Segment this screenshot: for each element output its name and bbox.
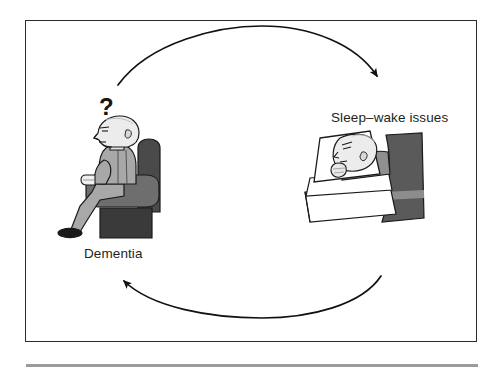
person-hand bbox=[81, 175, 95, 185]
label-sleep-wake-issues: Sleep–wake issues bbox=[331, 110, 448, 125]
person-shoe bbox=[58, 228, 82, 237]
label-dementia: Dementia bbox=[84, 246, 143, 261]
person-head bbox=[94, 116, 139, 147]
illustration-person-in-bed bbox=[305, 131, 424, 222]
illustration-dementia-person-in-armchair bbox=[58, 116, 160, 238]
figure-root: Sleep–wake issues Dementia ? bbox=[0, 0, 504, 371]
armchair-base bbox=[100, 208, 152, 238]
question-mark-annotation: ? bbox=[99, 95, 114, 119]
figure-illustration-stage bbox=[0, 0, 504, 371]
arrow-dementia-to-sleep-wake bbox=[118, 26, 377, 85]
bottom-divider-rule bbox=[26, 364, 478, 367]
arrow-sleep-wake-to-dementia bbox=[124, 276, 381, 318]
person-hand-in-bed bbox=[331, 163, 346, 177]
